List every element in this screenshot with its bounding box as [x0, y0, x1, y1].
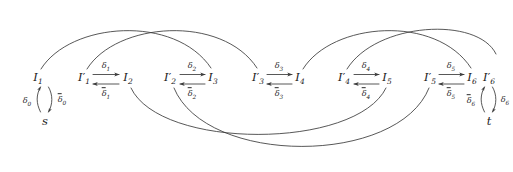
node-I3-prime: I′3: [252, 70, 264, 86]
edge-label-delta3: δ3: [275, 60, 284, 72]
node-I4: I4: [295, 70, 304, 86]
arc-I1p-to-I3p: [87, 31, 257, 69]
arc-I2p-to-I5p: [174, 88, 429, 147]
edge-label-delta4: δ4: [362, 60, 371, 72]
arc-I1-to-I3: [41, 31, 211, 69]
node-I1: I1: [33, 70, 42, 86]
edge-label-delta0-bar: δ0: [58, 94, 67, 106]
edge-label-delta6-bar: δ6: [467, 95, 476, 107]
edge-label-delta1-bar: δ1: [102, 88, 111, 100]
arrow-delta0-up: [37, 87, 40, 112]
node-I4-prime: I′4: [338, 70, 350, 86]
arrow-delta0bar-down: [49, 87, 52, 112]
node-I2: I2: [123, 70, 132, 86]
interval-chain-diagram: I1 I′1 I2 I′2 I3 I′3 I4 I′4 I5 I′5 I6 I′…: [0, 0, 513, 172]
node-I2-prime: I′2: [164, 70, 176, 86]
edge-label-delta4-bar: δ4: [362, 88, 371, 100]
edge-label-delta0: δ0: [23, 95, 32, 107]
node-t: t: [487, 114, 492, 128]
arrow-delta6bar-up: [481, 87, 484, 112]
arc-I2-to-I5: [131, 88, 386, 135]
node-I5-prime: I′5: [424, 70, 436, 86]
node-s: s: [42, 114, 48, 128]
edge-label-delta5-bar: δ5: [447, 88, 456, 100]
edge-label-delta6: δ6: [501, 94, 510, 106]
node-I5: I5: [382, 70, 391, 86]
node-I3: I3: [208, 70, 217, 86]
edge-label-delta3-bar: δ3: [275, 88, 284, 100]
edge-label-delta2-bar: δ2: [188, 88, 197, 100]
edge-label-delta5: δ5: [447, 60, 456, 72]
edge-label-delta2: δ2: [188, 60, 197, 72]
node-I1-prime: I′1: [78, 70, 90, 86]
node-I6-prime: I′6: [483, 70, 495, 86]
arrow-delta6-down: [493, 87, 496, 112]
node-I6: I6: [467, 70, 476, 86]
edge-label-delta1: δ1: [102, 60, 111, 72]
